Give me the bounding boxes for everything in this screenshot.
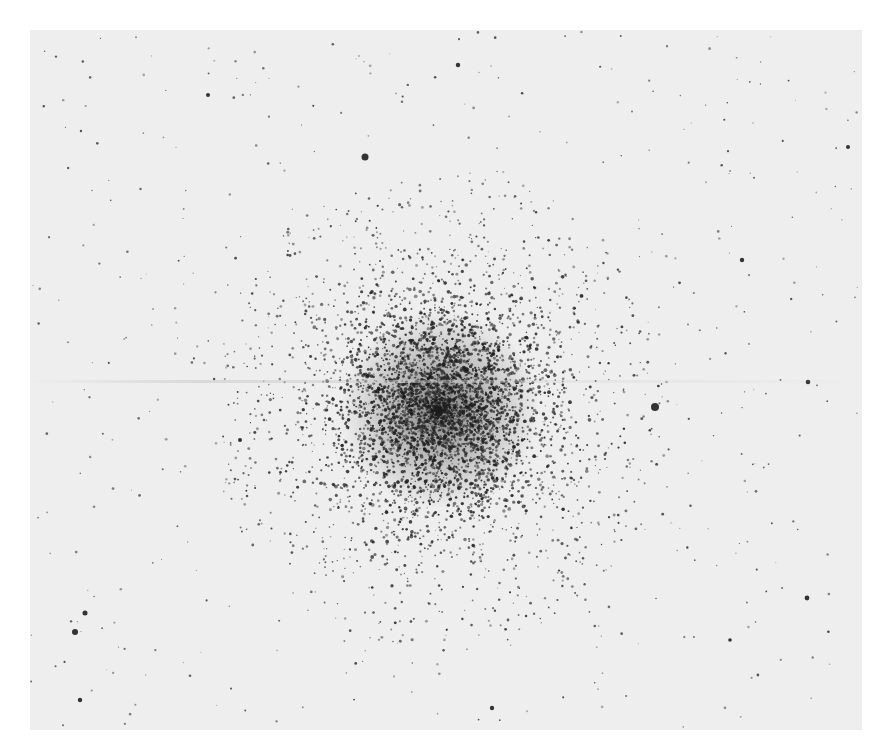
photographic-plate: Negative photographic plate of a globula… <box>30 30 862 730</box>
plate-streak <box>30 380 862 383</box>
